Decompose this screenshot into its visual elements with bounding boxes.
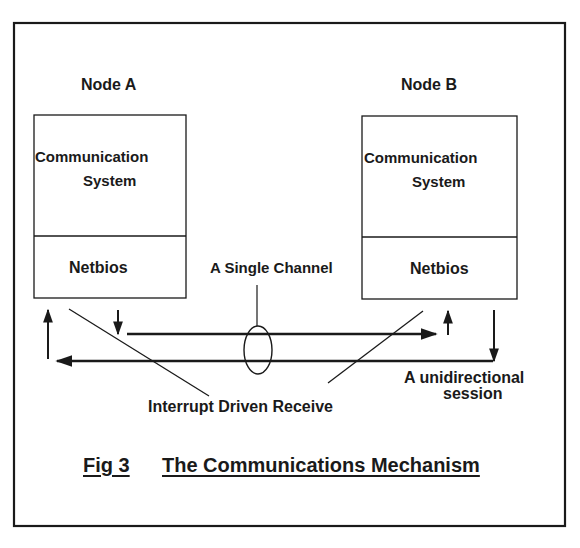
interrupt-pointer-line-a — [69, 309, 209, 396]
figure-caption-number: Fig 3 — [83, 454, 130, 477]
node-a-comm-system-line1: Communication — [35, 149, 148, 166]
node-a-netbios-label: Netbios — [69, 259, 128, 277]
node-b-title: Node B — [401, 76, 457, 94]
node-b-comm-system-line2: System — [412, 174, 465, 191]
node-b-netbios-label: Netbios — [410, 260, 469, 278]
node-b-comm-system-line1: Communication — [364, 150, 477, 167]
unidirectional-session-line2: session — [443, 385, 503, 403]
unidirectional-session-line1: A unidirectional — [404, 369, 524, 387]
figure-caption-title: The Communications Mechanism — [162, 454, 480, 477]
node-a-comm-system-line2: System — [83, 173, 136, 190]
interrupt-driven-receive-label: Interrupt Driven Receive — [148, 398, 333, 416]
node-a-title: Node A — [81, 76, 136, 94]
single-channel-label: A Single Channel — [210, 260, 333, 277]
